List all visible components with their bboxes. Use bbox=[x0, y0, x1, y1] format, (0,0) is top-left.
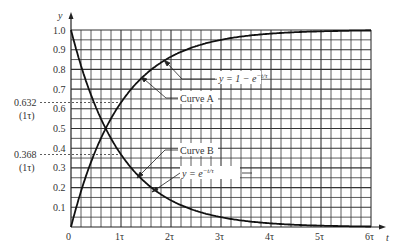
y-axis-label: y bbox=[57, 10, 63, 21]
curve-b-label: Curve B bbox=[180, 145, 214, 156]
y-tick-label: 1.0 bbox=[53, 25, 66, 36]
y-tick-label: 0.6 bbox=[53, 103, 66, 114]
x-tick-label: 1τ bbox=[115, 231, 124, 242]
y-tick-label: 0.5 bbox=[53, 123, 66, 134]
annotation-0368: 0.368 bbox=[14, 149, 37, 160]
y-tick-label: 0.8 bbox=[53, 64, 66, 75]
x-tick-label: 2τ bbox=[165, 231, 174, 242]
origin-label: 0 bbox=[66, 231, 71, 242]
x-ticks: 1τ2τ3τ4τ5τ6τ bbox=[115, 231, 374, 242]
x-tick-label: 3τ bbox=[215, 231, 224, 242]
x-tick-label: 6τ bbox=[365, 231, 374, 242]
y-tick-label: 0.1 bbox=[53, 202, 66, 213]
annotation-0368-sub: (1τ) bbox=[19, 162, 35, 174]
x-axis-arrow-icon bbox=[379, 225, 386, 230]
x-axis-label: t bbox=[386, 232, 389, 243]
axes bbox=[69, 12, 387, 230]
grid bbox=[71, 30, 371, 227]
rc-time-constant-chart: 1τ2τ3τ4τ5τ6τ 0.10.20.30.40.50.60.70.80.9… bbox=[0, 0, 400, 248]
x-tick-label: 4τ bbox=[265, 231, 274, 242]
y-axis-arrow-icon bbox=[69, 12, 74, 19]
y-ticks: 0.10.20.30.40.50.60.70.80.91.0 bbox=[53, 25, 66, 213]
y-tick-label: 0.3 bbox=[53, 162, 66, 173]
x-tick-label: 5τ bbox=[315, 231, 324, 242]
y-tick-label: 0.4 bbox=[53, 143, 66, 154]
y-tick-label: 0.7 bbox=[53, 84, 66, 95]
annotation-0632-sub: (1τ) bbox=[19, 110, 35, 122]
curve-a-label: Curve A bbox=[180, 93, 214, 104]
annotation-0632: 0.632 bbox=[14, 97, 37, 108]
y-tick-label: 0.2 bbox=[53, 182, 66, 193]
y-tick-label: 0.9 bbox=[53, 44, 66, 55]
